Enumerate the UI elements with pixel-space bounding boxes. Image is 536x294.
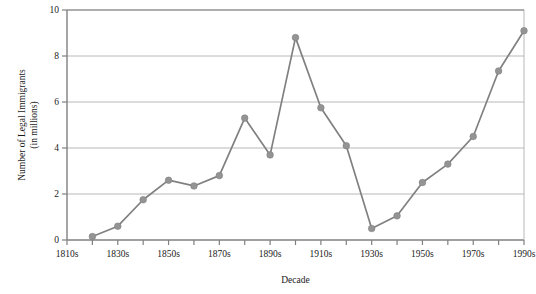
y-tick-group <box>62 10 67 240</box>
x-tick-label-1870s: 1870s <box>208 249 231 259</box>
data-point-1820s <box>89 233 96 240</box>
x-tick-label-1810s: 1810s <box>56 249 79 259</box>
y-tick-label-8: 8 <box>54 51 59 61</box>
x-tick-label-1990s: 1990s <box>513 249 536 259</box>
x-tick-label-1830s: 1830s <box>106 249 129 259</box>
data-point-1880s <box>241 115 248 122</box>
y-tick-label-10: 10 <box>50 5 60 15</box>
x-tick-group <box>67 240 524 245</box>
data-point-1930s <box>368 225 375 232</box>
y-tick-label-group: 0246810 <box>50 5 60 245</box>
data-point-1840s <box>140 196 147 203</box>
y-axis-title-line1: Number of Legal Immigrants <box>17 69 27 181</box>
data-point-1890s <box>267 152 274 159</box>
y-tick-label-6: 6 <box>54 97 59 107</box>
x-tick-label-1930s: 1930s <box>360 249 383 259</box>
data-point-1960s <box>445 161 452 168</box>
data-point-1830s <box>114 223 121 230</box>
x-tick-label-group: 1810s1830s1850s1870s1890s1910s1930s1950s… <box>56 249 536 259</box>
data-point-1860s <box>191 183 198 190</box>
data-point-1900s <box>292 34 299 41</box>
y-tick-label-0: 0 <box>54 235 59 245</box>
data-point-1850s <box>165 177 172 184</box>
data-point-1970s <box>470 133 477 140</box>
y-tick-label-2: 2 <box>54 189 59 199</box>
data-point-1920s <box>343 142 350 149</box>
x-tick-label-1890s: 1890s <box>259 249 282 259</box>
data-point-1870s <box>216 172 223 179</box>
immigration-line-chart: 0246810 1810s1830s1850s1870s1890s1910s19… <box>0 0 536 294</box>
x-tick-label-1950s: 1950s <box>411 249 434 259</box>
chart-canvas: 0246810 1810s1830s1850s1870s1890s1910s19… <box>0 0 536 294</box>
data-point-group <box>89 27 527 239</box>
y-tick-label-4: 4 <box>54 143 59 153</box>
x-tick-label-1970s: 1970s <box>462 249 485 259</box>
data-point-1910s <box>318 104 325 111</box>
x-tick-label-1910s: 1910s <box>310 249 333 259</box>
x-tick-label-1850s: 1850s <box>157 249 180 259</box>
data-point-1940s <box>394 213 401 220</box>
data-point-1990s <box>521 27 528 34</box>
axis-group <box>67 10 524 240</box>
data-line-group <box>92 31 524 237</box>
data-point-1980s <box>495 68 502 75</box>
data-point-1950s <box>419 179 426 186</box>
data-polyline <box>92 31 524 237</box>
y-axis-title-line2: (in millions) <box>29 101 40 148</box>
x-axis-title: Decade <box>281 275 309 285</box>
